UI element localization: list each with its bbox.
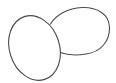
two-ovals-sketch [0, 0, 116, 83]
drawing-canvas [0, 0, 116, 83]
front-oval-shape [1, 9, 69, 83]
